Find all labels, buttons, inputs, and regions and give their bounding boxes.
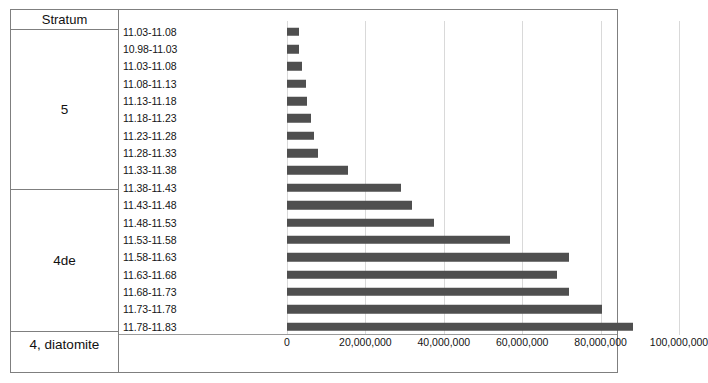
category-label: 11.63-11.68 <box>123 269 281 281</box>
bar-row: 11.78-11.83 <box>119 318 617 335</box>
bar <box>287 253 569 262</box>
bar-row: 11.13-11.18 <box>119 92 617 109</box>
bar <box>287 201 412 210</box>
category-label: 11.38-11.43 <box>123 182 281 194</box>
bar-row: 11.43-11.48 <box>119 197 617 214</box>
category-label: 11.23-11.28 <box>123 130 281 142</box>
x-axis-baseline <box>119 334 617 335</box>
bar <box>287 184 401 193</box>
bar-row: 11.03-11.08 <box>119 58 617 75</box>
plot-area: 11.03-11.0810.98-11.0311.03-11.0811.08-1… <box>119 21 617 335</box>
category-label: 11.58-11.63 <box>123 251 281 263</box>
category-label: 11.28-11.33 <box>123 147 281 159</box>
category-label: 11.13-11.18 <box>123 95 281 107</box>
category-label: 11.03-11.08 <box>123 60 281 72</box>
x-tick-label: 100,000,000 <box>650 336 708 348</box>
stratum-cell-4de: 4de <box>11 190 118 332</box>
chart-column: 11.03-11.0810.98-11.0311.03-11.0811.08-1… <box>119 10 617 372</box>
bar-row: 11.48-11.53 <box>119 214 617 231</box>
bar-row: 11.23-11.28 <box>119 127 617 144</box>
category-label: 10.98-11.03 <box>123 43 281 55</box>
bar-row: 11.08-11.13 <box>119 75 617 92</box>
gridline-5 <box>679 21 680 335</box>
bar-row: 11.68-11.73 <box>119 283 617 300</box>
stratum-cell-5: 5 <box>11 30 118 190</box>
bar-rows: 11.03-11.0810.98-11.0311.03-11.0811.08-1… <box>119 21 617 335</box>
bar <box>287 132 314 141</box>
bar-row: 11.18-11.23 <box>119 110 617 127</box>
bar <box>287 288 569 297</box>
category-label: 11.18-11.23 <box>123 112 281 124</box>
bar <box>287 45 299 54</box>
bar <box>287 305 602 314</box>
x-tick-label: 0 <box>284 336 290 348</box>
bar <box>287 218 434 227</box>
bar-row: 11.33-11.38 <box>119 162 617 179</box>
bar-row: 11.58-11.63 <box>119 249 617 266</box>
bar <box>287 149 318 158</box>
category-label: 11.33-11.38 <box>123 164 281 176</box>
category-label: 11.73-11.78 <box>123 303 281 315</box>
bar-row: 11.53-11.58 <box>119 231 617 248</box>
bar <box>287 79 306 88</box>
x-tick-label: 80,000,000 <box>574 336 627 348</box>
bar-row: 11.03-11.08 <box>119 23 617 40</box>
x-tick-label: 20,000,000 <box>339 336 392 348</box>
bar <box>287 62 302 71</box>
bar-row: 11.63-11.68 <box>119 266 617 283</box>
x-axis-tick-labels: 020,000,00040,000,00060,000,00080,000,00… <box>119 336 617 356</box>
category-label: 11.78-11.83 <box>123 321 281 333</box>
stratum-cell-4-diatomite: 4, diatomite <box>11 332 118 372</box>
bar <box>287 322 633 331</box>
category-label: 11.68-11.73 <box>123 286 281 298</box>
bar-row: 11.38-11.43 <box>119 179 617 196</box>
x-tick-label: 60,000,000 <box>496 336 549 348</box>
bar-row: 11.28-11.33 <box>119 144 617 161</box>
category-label: 11.53-11.58 <box>123 234 281 246</box>
category-label: 11.48-11.53 <box>123 217 281 229</box>
bar <box>287 270 557 279</box>
stratum-column-header: Stratum <box>11 10 118 30</box>
bar <box>287 27 299 36</box>
category-label: 11.03-11.08 <box>123 26 281 38</box>
bar <box>287 97 307 106</box>
bar <box>287 114 311 123</box>
bar-row: 10.98-11.03 <box>119 40 617 57</box>
category-label: 11.43-11.48 <box>123 199 281 211</box>
bar <box>287 166 348 175</box>
bar-row: 11.73-11.78 <box>119 301 617 318</box>
stratum-column: Stratum 5 4de 4, diatomite <box>11 10 119 372</box>
category-label: 11.08-11.13 <box>123 78 281 90</box>
stratum-bar-chart-figure: Stratum 5 4de 4, diatomite 11.03-11.0810… <box>10 9 618 373</box>
x-tick-label: 40,000,000 <box>418 336 471 348</box>
bar <box>287 236 510 245</box>
